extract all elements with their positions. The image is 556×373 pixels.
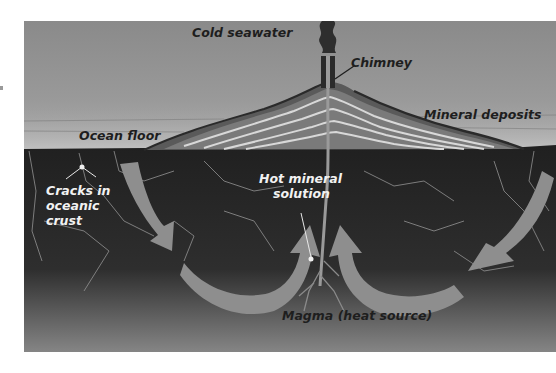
label-hot-solution-line1: Hot mineral (259, 171, 342, 186)
label-ocean-floor: Ocean floor (79, 128, 160, 143)
hydrothermal-diagram: Cold seawater Chimney Mineral deposits O… (24, 21, 556, 352)
label-hot-solution-line2: solution (273, 186, 330, 201)
label-chimney: Chimney (351, 55, 412, 70)
label-cracks-line3: crust (46, 213, 82, 228)
page-edge-mark (0, 86, 3, 90)
label-cracks-line1: Cracks in (46, 183, 110, 198)
label-cracks-line2: oceanic (46, 198, 100, 213)
label-cold-seawater: Cold seawater (192, 25, 292, 40)
label-magma: Magma (heat source) (282, 308, 432, 323)
label-mineral-deposits: Mineral deposits (424, 107, 541, 122)
